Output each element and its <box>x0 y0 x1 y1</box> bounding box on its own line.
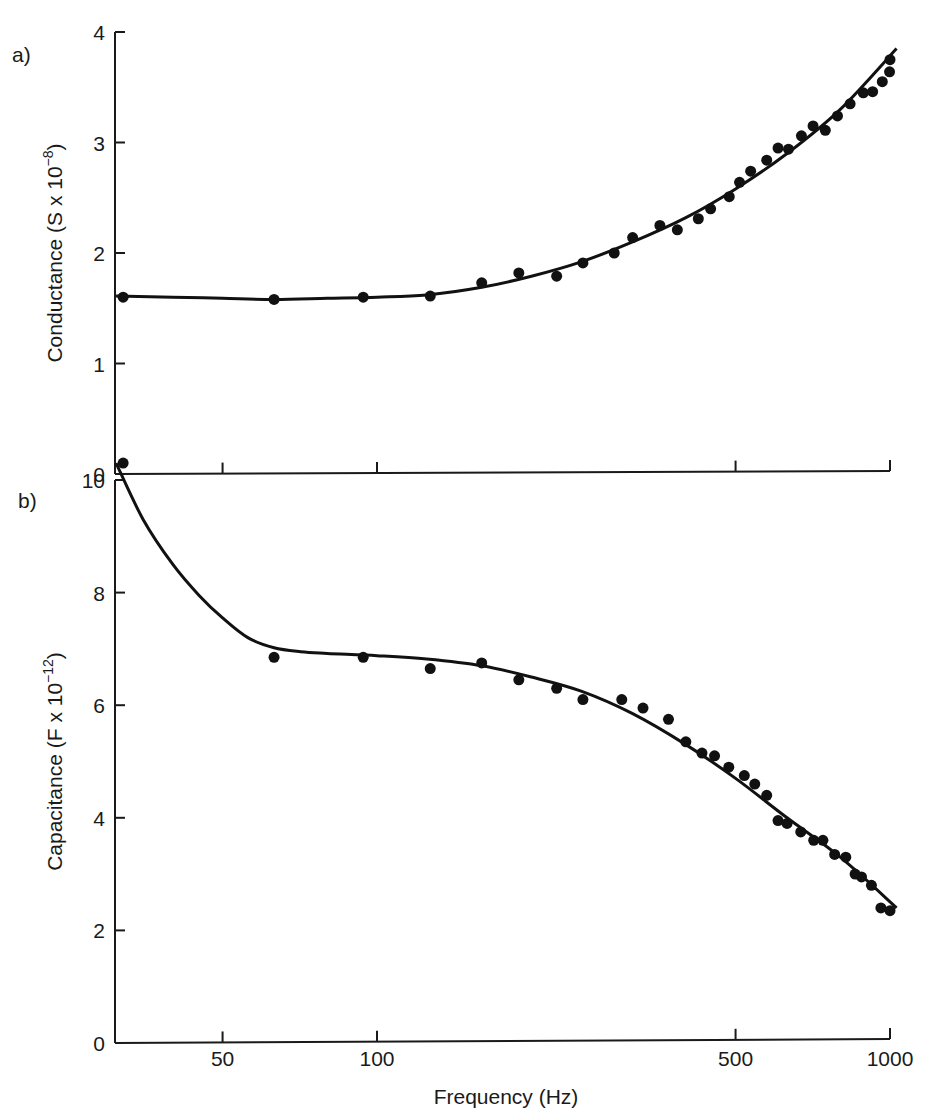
y-tick-label: 3 <box>93 132 105 155</box>
x-axis-title: Frequency (Hz) <box>434 1085 579 1108</box>
data-point <box>616 694 627 705</box>
x-tick-label: 50 <box>211 1047 234 1070</box>
fit-curve <box>116 463 897 908</box>
figure: 01234Conductance (S x 10−8) 0246810Capac… <box>0 0 938 1118</box>
y-axis-title: Conductance (S x 10−8) <box>40 143 66 362</box>
data-point <box>877 76 888 87</box>
x-tick-label: 100 <box>359 1047 394 1070</box>
y-tick-label: 8 <box>93 582 105 605</box>
y-tick-label: 1 <box>93 353 105 376</box>
data-point <box>672 224 683 235</box>
y-tick-label: 4 <box>93 807 105 830</box>
panel-label-b: b) <box>18 489 37 512</box>
data-point <box>739 770 750 781</box>
y-axis-title: Capacitance (F x 10−12) <box>40 652 66 871</box>
y-tick-label: 2 <box>93 919 105 942</box>
y-tick-label: 2 <box>93 242 105 265</box>
data-point <box>513 267 524 278</box>
data-point <box>693 213 704 224</box>
y-tick-label: 10 <box>82 469 105 492</box>
data-point <box>773 143 784 154</box>
data-point <box>269 652 280 663</box>
data-point <box>637 703 648 714</box>
panel-label-a: a) <box>12 43 31 66</box>
x-tick-label: 500 <box>718 1047 753 1070</box>
data-point <box>551 271 562 282</box>
y-tick-label: 4 <box>93 21 105 44</box>
data-point <box>884 66 895 77</box>
data-point <box>867 86 878 97</box>
x-axis <box>115 1039 890 1043</box>
x-axis <box>115 471 890 474</box>
data-point <box>663 714 674 725</box>
fit-curve <box>116 49 897 300</box>
figure-labels: a)b)501005001000Frequency (Hz) <box>12 43 913 1108</box>
data-point <box>749 779 760 790</box>
y-tick-label: 6 <box>93 694 105 717</box>
conductance-panel: 01234Conductance (S x 10−8) <box>40 21 897 486</box>
data-point <box>425 663 436 674</box>
y-tick-label: 0 <box>93 1032 105 1055</box>
capacitance-panel: 0246810Capacitance (F x 10−12) <box>40 458 897 1055</box>
x-tick-label: 1000 <box>867 1047 914 1070</box>
data-point <box>577 694 588 705</box>
